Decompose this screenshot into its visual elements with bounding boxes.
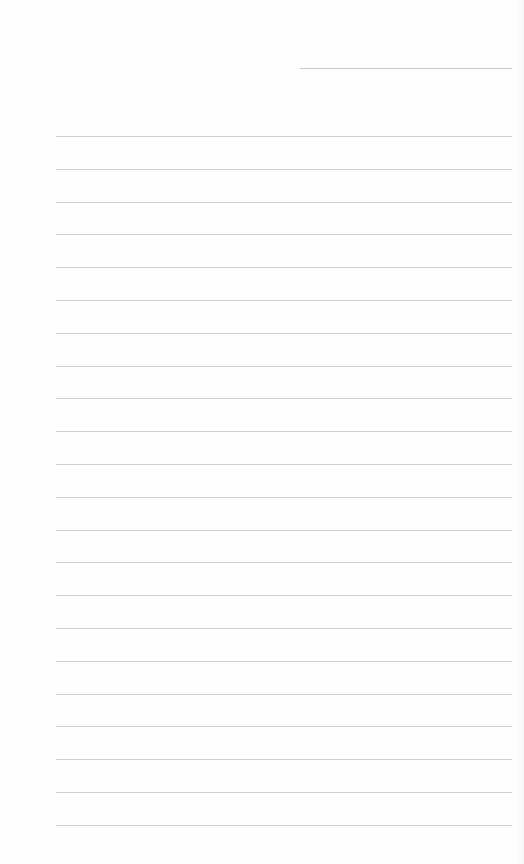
ruled-line	[56, 431, 512, 432]
ruled-line	[56, 202, 512, 203]
ruled-line	[56, 628, 512, 629]
ruled-line	[56, 497, 512, 498]
ruled-line	[56, 136, 512, 137]
ruled-line	[56, 562, 512, 563]
ruled-line	[56, 234, 512, 235]
ruled-line	[56, 366, 512, 367]
ruled-line	[56, 169, 512, 170]
ruled-line	[56, 759, 512, 760]
ruled-line	[56, 825, 512, 826]
ruled-line	[56, 661, 512, 662]
ruled-line	[56, 300, 512, 301]
ruled-line	[56, 267, 512, 268]
ruled-line	[56, 694, 512, 695]
ruled-line	[56, 333, 512, 334]
ruled-line	[56, 464, 512, 465]
lined-paper-page	[0, 0, 524, 864]
ruled-line	[56, 398, 512, 399]
ruled-line	[56, 595, 512, 596]
ruled-line	[56, 792, 512, 793]
ruled-line	[56, 530, 512, 531]
header-line	[300, 68, 512, 69]
page-edge-shadow	[516, 0, 524, 864]
ruled-line	[56, 726, 512, 727]
